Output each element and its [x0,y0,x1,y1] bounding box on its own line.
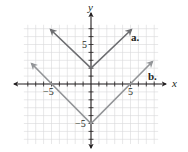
series-b-label: b. [148,70,157,82]
y-tick-label-neg5: −5 [75,118,86,129]
y-tick-label-pos5: 5 [82,39,87,50]
x-axis-label: x [171,77,177,89]
y-axis-label: y [87,1,93,13]
absolute-value-graph: y x −5 5 5 −5 a. b. [0,0,188,152]
series-a-label: a. [131,31,140,43]
axes [14,13,166,148]
x-tick-label-pos5: 5 [128,86,133,97]
x-tick-label-neg5: −5 [43,86,54,97]
